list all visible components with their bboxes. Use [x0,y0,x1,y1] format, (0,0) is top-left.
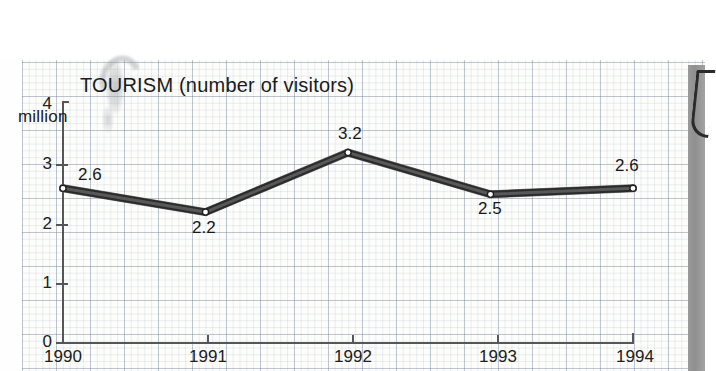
y-axis-unit-label: million [18,107,68,127]
x-tick-label-1993: 1993 [463,347,533,367]
y-tick-label-3: 3 [30,155,52,172]
y-tick-3 [56,164,68,166]
x-tick-1992 [352,335,354,344]
data-label-1993: 2.5 [478,199,502,219]
y-tick-1 [56,283,68,285]
x-tick-label-1992: 1992 [318,347,388,367]
y-tick-label-1: 1 [30,274,52,291]
y-axis-line [62,101,64,344]
x-tick-1994 [632,333,634,344]
y-tick-label-2: 2 [30,215,52,232]
data-label-1990: 2.6 [78,165,102,185]
paper-top-margin [0,0,705,60]
data-label-1994: 2.6 [615,156,639,176]
x-tick-label-1994: 1994 [600,347,670,367]
x-tick-1991 [207,335,209,344]
x-tick-label-1990: 1990 [28,347,98,367]
chart-title: TOURISM (number of visitors) [80,74,354,97]
y-tick-2 [56,224,68,226]
graph-paper-background [22,60,705,371]
data-label-1991: 2.2 [192,218,216,238]
x-tick-label-1991: 1991 [173,347,243,367]
x-tick-1990 [62,333,64,344]
x-tick-1993 [497,335,499,344]
x-axis-line [62,342,634,344]
data-label-1992: 3.2 [338,124,362,144]
y-axis-cap-tick [62,101,69,103]
